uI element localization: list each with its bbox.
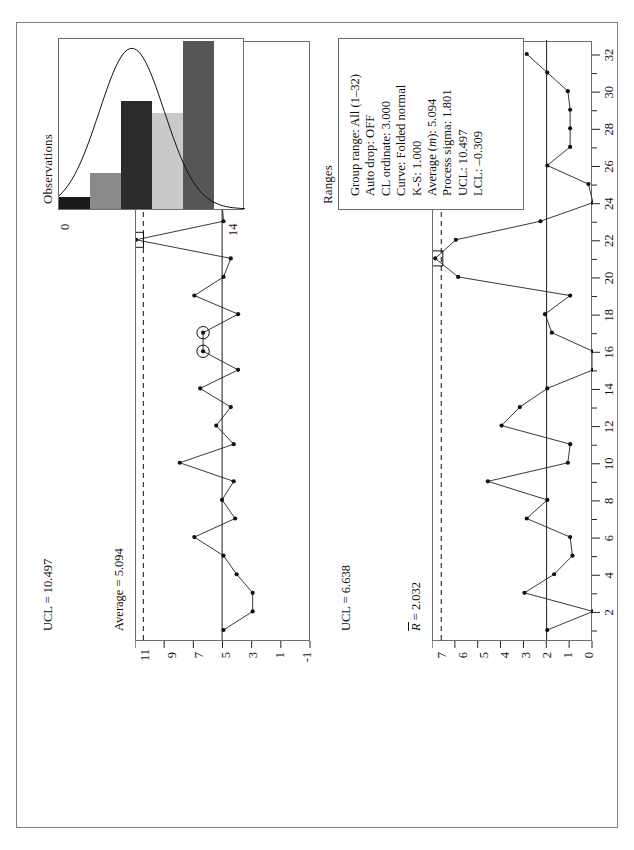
stat-ucl: UCL: 10.497	[456, 52, 471, 196]
stat-group-range: Group range: All (1–32)	[348, 52, 363, 196]
stat-auto-drop: Auto drop: OFF	[363, 52, 378, 196]
histogram-plot-area	[58, 38, 244, 210]
rotated-page-canvas: UCL = 10.497 Average = 5.094 11 9 7 5 3 …	[0, 0, 634, 850]
histogram-axis-min-label: 0	[58, 224, 73, 230]
ranges-xtick-18: 18	[602, 304, 617, 326]
ranges-ytick-marks	[432, 640, 594, 650]
stat-lcl: LCL: –0.309	[471, 52, 486, 196]
statistics-list: Group range: All (1–32) Auto drop: OFF C…	[348, 52, 487, 196]
histogram-block: Observations 0 14	[40, 30, 270, 210]
stat-process-sigma: Process sigma: 1.801	[440, 52, 455, 196]
observations-panel-title: Observations	[40, 134, 56, 204]
stat-average-symbol: m	[425, 138, 439, 147]
stat-cl-ordinate: CL ordinate: 3.000	[379, 52, 394, 196]
ranges-xtick-20: 20	[602, 267, 617, 289]
ranges-xtick-32: 32	[602, 44, 617, 66]
ranges-center-value: = 2.032	[409, 582, 423, 623]
ranges-rbar-symbol: R	[409, 623, 423, 631]
ranges-xtick-30: 30	[602, 81, 617, 103]
ranges-xtick-12: 12	[602, 416, 617, 438]
stat-average-suffix: ): 5.094	[425, 99, 439, 138]
ranges-xtick-16: 16	[602, 341, 617, 363]
observations-ytick-marks	[135, 640, 312, 650]
stat-ks: K-S: 1.000	[410, 52, 425, 196]
ranges-xtick-14: 14	[602, 378, 617, 400]
ranges-xtick-26: 26	[602, 155, 617, 177]
ranges-xtick-4: 4	[602, 564, 617, 586]
ranges-xtick-6: 6	[602, 527, 617, 549]
ranges-xtick-24: 24	[602, 193, 617, 215]
stats-block: Ranges Group range: All (1–32) Auto drop…	[320, 10, 590, 210]
ranges-rbar-overbar	[408, 622, 409, 631]
ranges-xtick-8: 8	[602, 490, 617, 512]
ranges-xtick-22: 22	[602, 230, 617, 252]
ranges-xaxis-svg	[592, 39, 602, 641]
ranges-xtick-28: 28	[602, 118, 617, 140]
ranges-ucl-label: UCL = 6.638	[339, 565, 354, 631]
stat-average: Average (m): 5.094	[425, 52, 440, 196]
ranges-xaxis-labels: 2468101214161820222426283032	[602, 41, 620, 641]
ranges-xtick-10: 10	[602, 453, 617, 475]
histogram-axis-max-label: 14	[226, 224, 241, 237]
statistics-box: Group range: All (1–32) Auto drop: OFF C…	[338, 38, 524, 210]
histogram-svg	[59, 37, 245, 209]
ranges-center-label: R = 2.032	[409, 582, 424, 631]
ranges-xtick-2: 2	[602, 601, 617, 623]
observations-ucl-label: UCL = 10.497	[41, 559, 56, 631]
stat-curve: Curve: Folded normal	[394, 52, 409, 196]
observations-ytick-neg1: -1	[300, 647, 315, 667]
ranges-panel-title: Ranges	[320, 165, 336, 204]
stat-average-prefix: Average (	[425, 147, 439, 196]
observations-center-label: Average = 5.094	[112, 548, 127, 631]
